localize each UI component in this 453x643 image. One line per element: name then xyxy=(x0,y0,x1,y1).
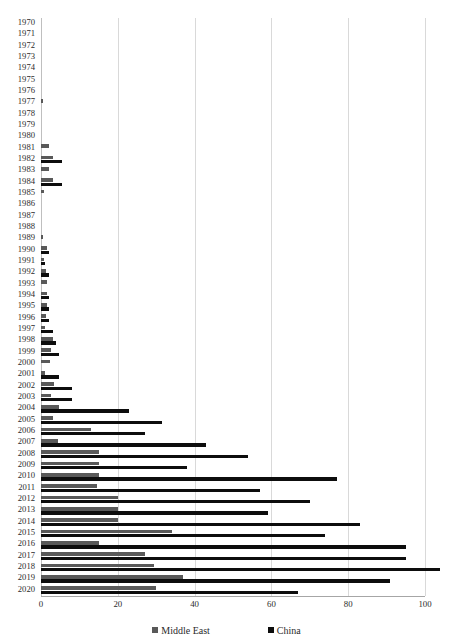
bar-row xyxy=(41,573,425,584)
bar-row xyxy=(41,381,425,392)
bar-china xyxy=(41,160,62,164)
bar-china xyxy=(41,568,440,572)
bar-china xyxy=(41,534,325,538)
bar-row xyxy=(41,29,425,40)
bar-china xyxy=(41,523,360,527)
y-axis-tick-label: 1972 xyxy=(18,40,35,51)
bar-middle-east xyxy=(41,371,45,375)
bar-row xyxy=(41,267,425,278)
x-axis-tick-label: 100 xyxy=(418,599,431,609)
y-axis-tick-label: 1992 xyxy=(18,266,35,277)
bar-middle-east xyxy=(41,280,47,284)
y-axis-tick-label: 2016 xyxy=(18,538,35,549)
y-axis-tick-label: 1971 xyxy=(18,28,35,39)
bar-row xyxy=(41,86,425,97)
bar-china xyxy=(41,375,59,379)
y-axis-tick-label: 1978 xyxy=(18,108,35,119)
bar-middle-east xyxy=(41,564,154,568)
y-axis-labels: 1970197119721973197419751976197719781979… xyxy=(0,18,38,596)
bar-china xyxy=(41,466,187,470)
bar-middle-east xyxy=(41,530,172,534)
y-axis-tick-label: 1998 xyxy=(18,334,35,345)
bar-china xyxy=(41,421,162,425)
y-axis-tick-label: 1975 xyxy=(18,74,35,85)
chart-legend: Middle EastChina xyxy=(0,622,453,638)
bar-middle-east xyxy=(41,394,51,398)
bar-middle-east xyxy=(41,156,53,160)
bar-row xyxy=(41,75,425,86)
bar-middle-east xyxy=(41,178,53,182)
bar-china xyxy=(41,500,310,504)
bar-middle-east xyxy=(41,518,118,522)
y-axis-tick-label: 1980 xyxy=(18,130,35,141)
legend-swatch-icon xyxy=(152,627,158,633)
bar-row xyxy=(41,18,425,29)
bar-middle-east xyxy=(41,99,43,103)
bar-china xyxy=(41,477,337,481)
y-axis-tick-label: 2006 xyxy=(18,425,35,436)
bar-row xyxy=(41,449,425,460)
y-axis-tick-label: 2002 xyxy=(18,380,35,391)
x-axis-tick-label: 60 xyxy=(267,599,276,609)
bar-row xyxy=(41,177,425,188)
bar-china xyxy=(41,273,49,277)
y-axis-tick-label: 1982 xyxy=(18,153,35,164)
bar-row xyxy=(41,347,425,358)
bar-middle-east xyxy=(41,586,156,590)
bar-china xyxy=(41,262,45,266)
bar-middle-east xyxy=(41,303,47,307)
chart-container: 1970197119721973197419751976197719781979… xyxy=(0,0,453,643)
bar-row xyxy=(41,551,425,562)
y-axis-tick-label: 2010 xyxy=(18,470,35,481)
legend-item[interactable]: China xyxy=(268,625,301,636)
bar-middle-east xyxy=(41,541,99,545)
bar-row xyxy=(41,290,425,301)
x-axis-line xyxy=(41,596,425,597)
bar-middle-east xyxy=(41,314,46,318)
bar-row xyxy=(41,154,425,165)
bar-china xyxy=(41,307,49,311)
y-axis-tick-label: 1990 xyxy=(18,244,35,255)
bar-row xyxy=(41,460,425,471)
bar-middle-east xyxy=(41,473,99,477)
bar-middle-east xyxy=(41,258,44,262)
y-axis-tick-label: 2015 xyxy=(18,527,35,538)
bar-row xyxy=(41,301,425,312)
y-axis-tick-label: 1997 xyxy=(18,323,35,334)
bar-row xyxy=(41,426,425,437)
bar-row xyxy=(41,245,425,256)
y-axis-tick-label: 1993 xyxy=(18,278,35,289)
bar-row xyxy=(41,279,425,290)
bar-middle-east xyxy=(41,337,53,341)
bar-china xyxy=(41,387,72,391)
legend-item[interactable]: Middle East xyxy=(152,625,210,636)
bar-row xyxy=(41,41,425,52)
bar-middle-east xyxy=(41,462,99,466)
y-axis-tick-label: 1986 xyxy=(18,198,35,209)
bar-middle-east xyxy=(41,484,97,488)
y-axis-tick-label: 2020 xyxy=(18,584,35,595)
bar-china xyxy=(41,353,59,357)
y-axis-tick-label: 1984 xyxy=(18,176,35,187)
bar-middle-east xyxy=(41,496,118,500)
bar-row xyxy=(41,63,425,74)
bar-row xyxy=(41,437,425,448)
bar-china xyxy=(41,341,56,345)
bar-row xyxy=(41,211,425,222)
bar-middle-east xyxy=(41,246,47,250)
x-axis-tick-label: 80 xyxy=(344,599,353,609)
bar-middle-east xyxy=(41,405,59,409)
bar-china xyxy=(41,183,62,187)
y-axis-tick-label: 1995 xyxy=(18,300,35,311)
bar-middle-east xyxy=(41,144,49,148)
bar-china xyxy=(41,455,248,459)
y-axis-tick-label: 2004 xyxy=(18,402,35,413)
bar-row xyxy=(41,415,425,426)
bar-row xyxy=(41,562,425,573)
bar-middle-east xyxy=(41,382,54,386)
bar-china xyxy=(41,330,53,334)
y-axis-tick-label: 1999 xyxy=(18,346,35,357)
bar-row xyxy=(41,109,425,120)
bar-row xyxy=(41,52,425,63)
bar-row xyxy=(41,471,425,482)
